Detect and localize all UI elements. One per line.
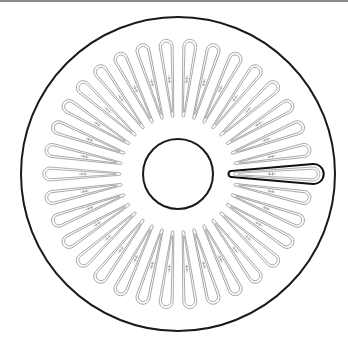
slot [215,207,282,270]
slot [49,188,127,229]
slot [223,97,297,150]
slot [187,227,222,306]
slot-highlighted [229,164,324,184]
disk-svg [0,0,348,347]
highlighted-slot[interactable] [229,164,324,184]
slot [73,207,140,270]
slot [229,119,307,160]
disk-diagram: Disk with radial teardrop slots [0,0,348,347]
slot [44,142,123,170]
slot [43,167,121,181]
slot [223,198,297,251]
slot [176,39,197,118]
slot [59,198,133,251]
slot [233,178,312,206]
slot [229,188,307,229]
slot [159,230,180,309]
slot [73,78,140,141]
slot [49,119,127,160]
slot [187,42,222,121]
slot [59,97,133,150]
slot [134,227,169,306]
slot [215,78,282,141]
slot [159,39,180,118]
outer-ring [21,17,335,331]
slot [176,230,197,309]
slot [44,178,123,206]
slot [134,42,169,121]
hub-circle [143,139,213,209]
slot [233,142,312,170]
